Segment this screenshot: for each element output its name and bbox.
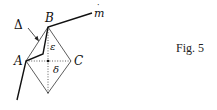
label-delta-lower: δ <box>53 64 59 75</box>
label-B: B <box>44 11 54 25</box>
bottom-vertex <box>47 92 48 93</box>
label-A: A <box>13 54 23 68</box>
figure-caption: Fig. 5 <box>176 41 204 55</box>
label-delta-upper: Δ <box>14 18 23 32</box>
delta-arrow-shaft <box>28 28 37 39</box>
label-m-hat-accent: ˙ <box>96 3 101 13</box>
figure-diagram: Δ B A C m ˙ ε δ Fig. 5 <box>0 0 217 110</box>
label-C: C <box>74 54 83 68</box>
label-epsilon: ε <box>50 41 55 52</box>
center-point <box>47 60 50 63</box>
